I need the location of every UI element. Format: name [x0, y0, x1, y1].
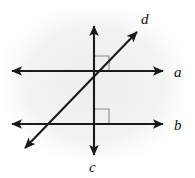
- geometry-figure: a b c d: [0, 0, 195, 178]
- label-line-c: c: [89, 159, 96, 175]
- figure-canvas: a b c d: [0, 0, 195, 178]
- label-line-a: a: [174, 64, 182, 80]
- label-line-b: b: [174, 117, 182, 133]
- label-line-d: d: [141, 11, 149, 27]
